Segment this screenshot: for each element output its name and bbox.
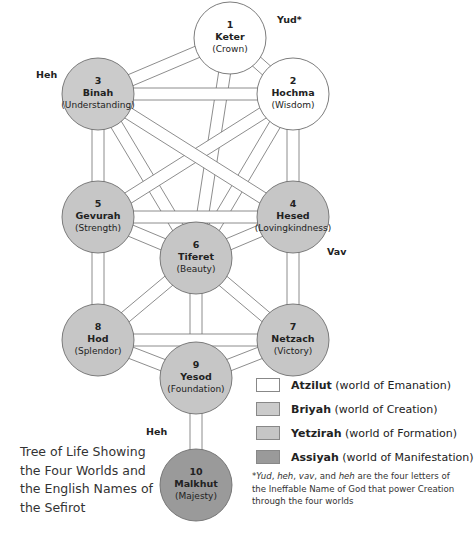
sefira-name: Hesed <box>276 210 309 221</box>
sefira-hod: 8Hod(Splendor) <box>62 304 134 376</box>
sefira-name: Hochma <box>271 87 314 98</box>
sefira-num: 3 <box>95 75 102 86</box>
sefira-eng: (Foundation) <box>167 384 224 394</box>
legend-item-assiyah: Assiyah (world of Manifestation) <box>256 445 474 469</box>
worlds-legend: Atzilut (world of Emanation) Briyah (wor… <box>256 373 474 469</box>
sefira-name: Keter <box>215 31 245 42</box>
sefira-gevurah: 5Gevurah(Strength) <box>62 181 134 253</box>
sefira-num: 7 <box>290 321 297 332</box>
legend-desc: (world of Formation) <box>342 427 457 440</box>
sefira-eng: (Majesty) <box>175 491 217 501</box>
sefira-netzach: 7Netzach(Victory) <box>257 304 329 376</box>
swatch-atzilut <box>256 378 280 392</box>
sefira-num: 1 <box>227 19 234 30</box>
sefira-name: Hod <box>87 333 108 344</box>
letter-heh-lower: Heh <box>146 426 167 437</box>
sefira-name: Netzach <box>271 333 315 344</box>
footnote-heh: heh <box>277 471 293 481</box>
sefira-yesod: 9Yesod(Foundation) <box>160 342 232 414</box>
legend-name: Assiyah <box>291 451 339 464</box>
footnote-vav: vav <box>299 471 314 481</box>
sefira-num: 5 <box>95 198 102 209</box>
legend-name: Briyah <box>291 403 331 416</box>
sefira-eng: (Crown) <box>212 44 247 54</box>
footnote: *Yud, heh, vav, and heh are the four let… <box>252 470 462 508</box>
letter-yud: Yud* <box>277 14 302 25</box>
letter-vav: Vav <box>327 246 346 257</box>
footnote-heh2: heh <box>339 471 355 481</box>
sefira-binah: 3Binah(Understanding) <box>61 58 134 130</box>
sefira-eng: (Wisdom) <box>272 100 315 110</box>
swatch-yetzirah <box>256 426 280 440</box>
sefira-num: 6 <box>193 239 200 250</box>
sefira-num: 2 <box>290 75 297 86</box>
sefira-name: Yesod <box>179 371 211 382</box>
legend-desc: (world of Manifestation) <box>339 451 474 464</box>
swatch-assiyah <box>256 450 280 464</box>
sefira-name: Tiferet <box>178 251 214 262</box>
sefira-eng: (Beauty) <box>177 264 216 274</box>
sefira-num: 9 <box>193 359 200 370</box>
sefira-eng: (Victory) <box>274 346 313 356</box>
legend-desc: (world of Creation) <box>331 403 438 416</box>
footnote-yud: Yud <box>256 471 271 481</box>
legend-item-atzilut: Atzilut (world of Emanation) <box>256 373 474 397</box>
figure-caption: Tree of Life Showing the Four Worlds and… <box>20 443 170 517</box>
sefira-name: Binah <box>83 87 114 98</box>
sefira-hesed: 4Hesed(Lovingkindness) <box>255 181 331 253</box>
legend-item-yetzirah: Yetzirah (world of Formation) <box>256 421 474 445</box>
legend-name: Yetzirah <box>291 427 342 440</box>
sefira-num: 8 <box>95 321 102 332</box>
sefira-tiferet: 6Tiferet(Beauty) <box>160 222 232 294</box>
sefira-name: Malkhut <box>174 478 218 489</box>
swatch-briyah <box>256 402 280 416</box>
legend-desc: (world of Emanation) <box>332 379 451 392</box>
sefira-eng: (Strength) <box>75 223 121 233</box>
letter-heh-upper: Heh <box>36 69 57 80</box>
sefira-hochma: 2Hochma(Wisdom) <box>257 58 329 130</box>
sefira-keter: 1Keter(Crown) <box>194 2 266 74</box>
footnote-sep: , and <box>314 471 338 481</box>
legend-name: Atzilut <box>291 379 332 392</box>
sefira-name: Gevurah <box>75 210 120 221</box>
sefira-eng: (Understanding) <box>61 100 134 110</box>
sefira-num: 4 <box>290 198 297 209</box>
sefira-num: 10 <box>189 466 203 477</box>
sefira-eng: (Splendor) <box>74 346 121 356</box>
sefira-eng: (Lovingkindness) <box>255 223 331 233</box>
sefira-malkhut: 10Malkhut(Majesty) <box>160 449 232 521</box>
legend-item-briyah: Briyah (world of Creation) <box>256 397 474 421</box>
